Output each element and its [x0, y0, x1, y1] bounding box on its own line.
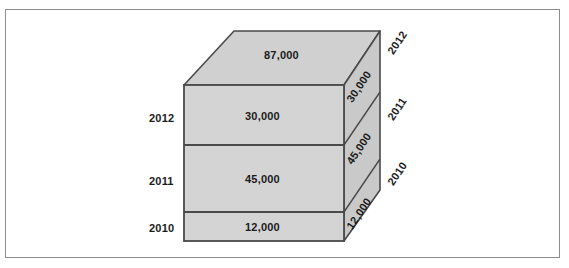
category-label-left-2012: 2012 [149, 112, 174, 124]
category-label-left-2011: 2011 [149, 175, 174, 187]
front-segment-value-2012: 30,000 [245, 110, 280, 122]
top-face-value-label: 87,000 [264, 49, 299, 61]
front-segment-value-2010: 12,000 [245, 221, 280, 233]
stacked-3d-block-chart [0, 0, 569, 268]
figure-canvas: 87,000 30,000 45,000 12,000 2012 2011 20… [0, 0, 569, 268]
front-segment-value-2011: 45,000 [245, 173, 280, 185]
front-face [184, 85, 344, 241]
category-label-left-2010: 2010 [149, 222, 174, 234]
